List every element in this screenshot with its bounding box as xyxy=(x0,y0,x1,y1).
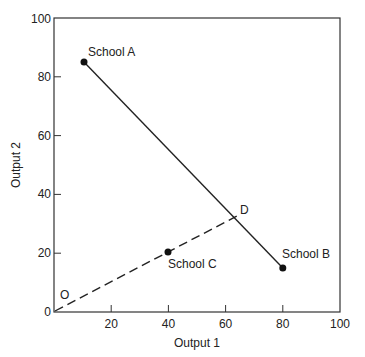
y-tick-40: 40 xyxy=(38,187,52,201)
y-tick-60: 60 xyxy=(38,129,52,143)
y-tick-0: 0 xyxy=(44,305,51,319)
chart: 0 20 40 60 80 100 20 40 60 80 100 Output… xyxy=(0,0,365,357)
label-school-b: School B xyxy=(282,247,330,261)
label-school-c: School C xyxy=(168,257,217,271)
point-school-a xyxy=(81,59,88,66)
y-tick-labels: 0 20 40 60 80 100 xyxy=(31,12,51,319)
y-axis xyxy=(54,77,61,253)
x-tick-80: 80 xyxy=(276,317,290,331)
x-tick-20: 20 xyxy=(105,317,119,331)
label-school-a: School A xyxy=(88,45,135,59)
x-tick-40: 40 xyxy=(162,317,176,331)
frontier-line xyxy=(84,62,283,268)
y-tick-80: 80 xyxy=(38,70,52,84)
x-axis xyxy=(111,305,283,312)
x-tick-60: 60 xyxy=(219,317,233,331)
label-o: O xyxy=(60,288,69,302)
point-school-c xyxy=(165,249,172,256)
x-axis-label: Output 1 xyxy=(174,336,220,350)
y-tick-20: 20 xyxy=(38,246,52,260)
x-tick-100: 100 xyxy=(330,317,350,331)
y-tick-100: 100 xyxy=(31,12,51,26)
point-school-b xyxy=(279,265,286,272)
label-d: D xyxy=(240,203,249,217)
x-tick-labels: 20 40 60 80 100 xyxy=(105,317,351,331)
y-axis-label: Output 2 xyxy=(9,142,23,188)
